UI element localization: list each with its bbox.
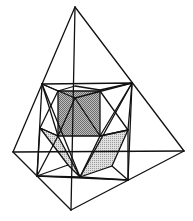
- front-square-face: [58, 91, 100, 136]
- tet-edge-left-bottom: [13, 152, 71, 210]
- frame-br-to-hexright: [112, 166, 128, 180]
- polyhedron-diagram: [0, 0, 193, 221]
- right-lower-face: [80, 130, 128, 177]
- inner-polyhedron: [40, 83, 132, 177]
- frame-tl-to-midleft: [42, 84, 58, 136]
- top-cap-edge: [58, 86, 100, 91]
